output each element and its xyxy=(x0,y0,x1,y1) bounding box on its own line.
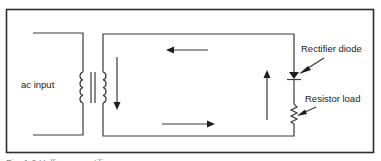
diode-icon xyxy=(287,72,301,80)
figure-frame xyxy=(7,10,374,153)
ac-input-label: ac input xyxy=(21,79,55,90)
rectifier-circuit-diagram: ac input Rectifier diode Resistor load F… xyxy=(0,0,381,161)
current-arrow-down-icon xyxy=(114,57,121,110)
current-arrow-up-icon xyxy=(264,70,271,120)
secondary-coil-icon xyxy=(103,72,106,103)
current-arrow-right-icon xyxy=(162,121,215,128)
rectifier-diode-label: Rectifier diode xyxy=(301,43,362,54)
current-arrow-left-icon xyxy=(166,47,208,54)
resistor-load-label: Resistor load xyxy=(305,93,360,104)
resistor-icon xyxy=(291,104,297,124)
figure-caption: Fig. 1-9 Half-wave rectifier xyxy=(6,158,111,161)
resistor-leader-arrow-icon xyxy=(297,107,316,116)
primary-coil-icon xyxy=(80,72,83,103)
secondary-circuit xyxy=(103,34,294,136)
diode-leader-arrow-icon xyxy=(299,58,324,74)
transformer-core-icon xyxy=(91,72,95,103)
